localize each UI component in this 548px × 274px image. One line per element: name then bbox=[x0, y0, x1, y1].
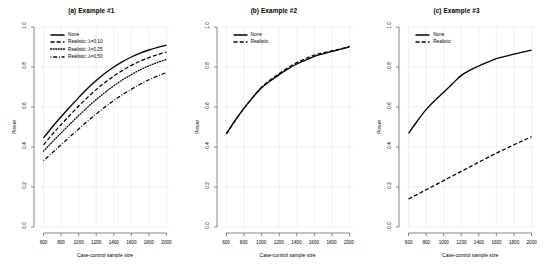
x-tick-label: 1000 bbox=[252, 240, 270, 245]
y-tick-label: 0.2 bbox=[204, 180, 209, 192]
x-tick-label: 1200 bbox=[87, 240, 105, 245]
legend: NoneRealistic: λ=0.10Realistic: λ=0.25Re… bbox=[50, 31, 103, 61]
x-axis-label: Case-control sample size bbox=[40, 252, 170, 258]
x-tick-label: 1800 bbox=[323, 240, 341, 245]
x-tick-label: 600 bbox=[35, 240, 53, 245]
legend-item: Realistic: λ=0.25 bbox=[50, 46, 103, 53]
x-tick-label: 1600 bbox=[305, 240, 323, 245]
legend-line-sample-icon bbox=[233, 32, 248, 38]
legend: NoneRealistic bbox=[233, 31, 269, 46]
y-tick-label: 0.0 bbox=[387, 220, 392, 232]
x-tick-label: 800 bbox=[52, 240, 70, 245]
y-tick-label: 0.8 bbox=[387, 60, 392, 72]
x-tick-label: 2000 bbox=[340, 240, 358, 245]
legend-line-sample-icon bbox=[50, 46, 65, 52]
x-tick-label: 800 bbox=[417, 240, 435, 245]
y-axis-label: Power bbox=[194, 120, 200, 134]
legend-line-sample-icon bbox=[50, 39, 65, 45]
x-axis-label: Case-control sample size bbox=[405, 252, 535, 258]
series-line bbox=[409, 50, 532, 133]
x-tick-label: 1400 bbox=[470, 240, 488, 245]
x-tick-label: 2000 bbox=[523, 240, 541, 245]
x-tick-label: 1000 bbox=[435, 240, 453, 245]
y-tick-label: 0.6 bbox=[387, 100, 392, 112]
y-tick-label: 0.2 bbox=[22, 180, 27, 192]
legend-item: Realistic: λ=0.50 bbox=[50, 53, 103, 60]
x-tick-label: 1600 bbox=[122, 240, 140, 245]
legend-item: None bbox=[233, 31, 269, 38]
legend-item: Realistic bbox=[233, 38, 269, 45]
x-tick-label: 1800 bbox=[140, 240, 158, 245]
legend-line-sample-icon bbox=[50, 32, 65, 38]
power-curves-figure: (a) Example #1 Power Case-control sample… bbox=[0, 0, 548, 274]
panel-example-1: (a) Example #1 Power Case-control sample… bbox=[0, 0, 183, 274]
y-tick-label: 0.8 bbox=[22, 60, 27, 72]
x-tick-label: 2000 bbox=[157, 240, 175, 245]
legend-label: Realistic: λ=0.50 bbox=[68, 53, 103, 60]
y-tick-label: 0.4 bbox=[22, 140, 27, 152]
panel-b-canvas bbox=[183, 0, 366, 274]
legend-label: Realistic bbox=[433, 38, 451, 45]
legend-item: None bbox=[415, 31, 451, 38]
legend-item: Realistic bbox=[415, 38, 451, 45]
series-line bbox=[226, 46, 349, 134]
series-line bbox=[226, 47, 349, 134]
y-tick-label: 0.4 bbox=[387, 140, 392, 152]
legend-line-sample-icon bbox=[415, 39, 430, 45]
y-tick-label: 0.8 bbox=[204, 60, 209, 72]
legend-line-sample-icon bbox=[50, 54, 65, 60]
x-axis-label: Case-control sample size bbox=[223, 252, 353, 258]
legend-label: None bbox=[251, 31, 262, 38]
panel-c-canvas bbox=[365, 0, 548, 274]
legend-label: None bbox=[433, 31, 444, 38]
x-tick-label: 1400 bbox=[105, 240, 123, 245]
y-tick-label: 1.0 bbox=[204, 20, 209, 32]
legend-line-sample-icon bbox=[233, 39, 248, 45]
x-tick-label: 600 bbox=[217, 240, 235, 245]
y-tick-label: 0.6 bbox=[22, 100, 27, 112]
x-tick-label: 1000 bbox=[70, 240, 88, 245]
series-line bbox=[409, 137, 532, 199]
legend-item: None bbox=[50, 31, 103, 38]
x-tick-label: 1800 bbox=[505, 240, 523, 245]
y-tick-label: 0.6 bbox=[204, 100, 209, 112]
y-tick-label: 0.0 bbox=[204, 220, 209, 232]
legend-label: Realistic: λ=0.10 bbox=[68, 38, 103, 45]
x-tick-label: 1600 bbox=[488, 240, 506, 245]
y-tick-label: 1.0 bbox=[22, 20, 27, 32]
panel-example-2: (b) Example #2 Power Case-control sample… bbox=[183, 0, 366, 274]
x-tick-label: 1400 bbox=[287, 240, 305, 245]
legend-label: Realistic: λ=0.25 bbox=[68, 46, 103, 53]
x-tick-label: 600 bbox=[400, 240, 418, 245]
legend-label: None bbox=[68, 31, 79, 38]
y-tick-label: 0.0 bbox=[22, 220, 27, 232]
x-tick-label: 800 bbox=[235, 240, 253, 245]
x-tick-label: 1200 bbox=[452, 240, 470, 245]
legend-line-sample-icon bbox=[415, 32, 430, 38]
y-tick-label: 1.0 bbox=[387, 20, 392, 32]
y-tick-label: 0.4 bbox=[204, 140, 209, 152]
panel-example-3: (c) Example #3 Power Case-control sample… bbox=[365, 0, 548, 274]
legend-label: Realistic bbox=[251, 38, 269, 45]
y-axis-label: Power bbox=[376, 120, 382, 134]
legend: NoneRealistic bbox=[415, 31, 451, 46]
x-tick-label: 1200 bbox=[270, 240, 288, 245]
y-axis-label: Power bbox=[11, 120, 17, 134]
y-tick-label: 0.2 bbox=[387, 180, 392, 192]
legend-item: Realistic: λ=0.10 bbox=[50, 38, 103, 45]
